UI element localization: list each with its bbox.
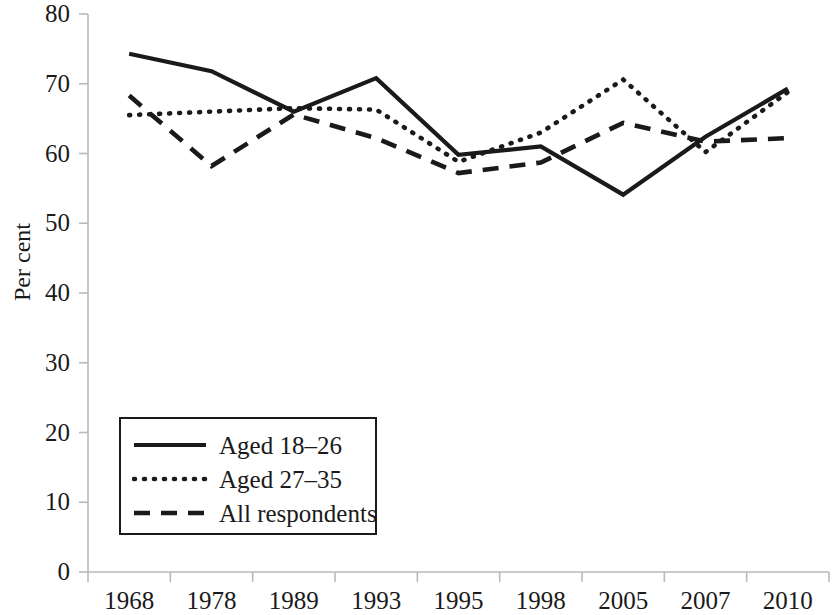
legend-item: Aged 27–35 [121,461,375,497]
legend-swatch-solid-icon [132,435,208,455]
y-tick-label: 10 [0,489,70,514]
legend-swatch-dashed-icon [132,503,208,523]
y-tick-label: 60 [0,141,70,166]
line-chart: 01020304050607080 1968197819891993199519… [0,0,832,615]
x-tick-label: 1989 [253,588,335,613]
legend-item: Aged 18–26 [121,427,375,463]
x-tick-label: 1978 [170,588,252,613]
x-tick-label: 1995 [417,588,499,613]
x-tick-label: 2010 [747,588,829,613]
y-tick-label: 30 [0,350,70,375]
legend-label: Aged 18–26 [219,433,342,458]
series-line [129,96,788,173]
y-tick-label: 20 [0,420,70,445]
legend-label: Aged 27–35 [219,467,342,492]
y-tick-label: 80 [0,1,70,26]
x-tick-label: 1968 [88,588,170,613]
legend-label: All respondents [219,501,377,526]
x-tick-label: 2007 [664,588,746,613]
x-tick-label: 1998 [500,588,582,613]
y-tick-label: 0 [0,559,70,584]
y-axis-label: Per cent [10,202,34,322]
chart-legend: Aged 18–26Aged 27–35All respondents [119,417,377,535]
legend-item: All respondents [121,495,375,531]
x-tick-label: 1993 [335,588,417,613]
x-tick-label: 2005 [582,588,664,613]
y-tick-label: 70 [0,71,70,96]
legend-swatch-dotted-icon [132,469,208,489]
series-lines [129,54,788,195]
